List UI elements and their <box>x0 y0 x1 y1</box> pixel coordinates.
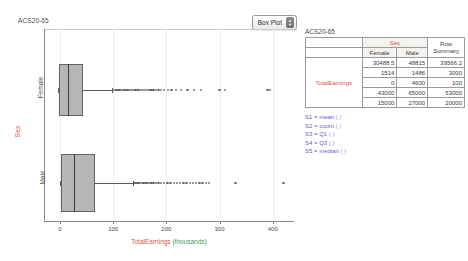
outlier-point[interactable] <box>192 182 194 184</box>
x-axis-line <box>44 221 294 222</box>
outlier-point[interactable] <box>182 182 184 184</box>
outlier-point[interactable] <box>169 182 171 184</box>
cell-row-summary: 100 <box>428 78 465 88</box>
cell-female: 30488.5 <box>362 58 397 68</box>
whisker-upper-female <box>83 90 112 91</box>
outlier-point[interactable] <box>179 182 181 184</box>
legend-entry-s5: S5 = median ( ) <box>305 147 465 156</box>
application-window: ACS20-65 Box Plot ▲▼ Sex Female Male 010… <box>0 0 468 261</box>
x-tick-100 <box>113 221 114 224</box>
outlier-point[interactable] <box>200 89 202 91</box>
box-male[interactable] <box>61 154 95 212</box>
outlier-point[interactable] <box>208 182 210 184</box>
legend-paren: ( ) <box>329 131 335 137</box>
plot-frame-top <box>44 29 294 30</box>
y-tick-label-female: Female <box>37 68 44 108</box>
outlier-point[interactable] <box>175 89 177 91</box>
header-spacer-2 <box>306 48 363 58</box>
x-tick-label-100: 100 <box>102 226 124 232</box>
outlier-point[interactable] <box>198 182 200 184</box>
column-header-male: Male <box>397 48 428 58</box>
outlier-point[interactable] <box>201 182 203 184</box>
legend-paren: ( ) <box>341 148 347 154</box>
legend-paren: ( ) <box>336 123 342 129</box>
x-tick-label-200: 200 <box>155 226 177 232</box>
cell-female: 43000 <box>362 88 397 98</box>
x-gridline-200 <box>166 29 167 221</box>
header-spacer <box>306 38 363 48</box>
stepper-icon[interactable]: ▲▼ <box>286 17 294 28</box>
table-header-group-row: Sex Row Summary <box>306 38 465 48</box>
outlier-point[interactable] <box>195 182 197 184</box>
outlier-point[interactable] <box>186 89 188 91</box>
cell-male: 65000 <box>397 88 428 98</box>
whisker-cap-lower-female <box>58 88 59 93</box>
median-line-female <box>68 64 69 116</box>
summary-panel: ACS20-65 Sex Row Summary Female Male Tot… <box>305 28 465 156</box>
outlier-point[interactable] <box>218 89 220 91</box>
y-axis-variable-label: Sex <box>14 117 21 147</box>
summary-title: ACS20-65 <box>305 28 465 35</box>
outlier-point[interactable] <box>189 182 191 184</box>
cell-row-summary: 3000 <box>428 68 465 78</box>
cell-female: 0 <box>362 78 397 88</box>
outlier-point[interactable] <box>193 89 195 91</box>
outlier-point[interactable] <box>160 89 162 91</box>
outlier-point[interactable] <box>163 182 165 184</box>
cell-female: 15000 <box>362 98 397 108</box>
legend-entry-s1: S1 = mean ( ) <box>305 113 465 122</box>
legend-entry-s3: S3 = Q1 ( ) <box>305 130 465 139</box>
column-header-female: Female <box>362 48 397 58</box>
x-tick-300 <box>220 221 221 224</box>
legend-paren: ( ) <box>329 140 335 146</box>
outlier-point[interactable] <box>185 182 187 184</box>
row-summary-header: Row Summary <box>428 38 465 58</box>
legend-key: S3 = Q1 <box>305 131 327 137</box>
view-type-dropdown[interactable]: Box Plot ▲▼ <box>252 15 297 30</box>
view-type-label: Box Plot <box>258 19 286 26</box>
outlier-point[interactable] <box>166 182 168 184</box>
outlier-point[interactable] <box>180 89 182 91</box>
plot-panel: ACS20-65 Box Plot ▲▼ Sex Female Male 010… <box>6 6 301 255</box>
cell-male: 1486 <box>397 68 428 78</box>
row-summary-header-line1: Row <box>430 41 462 48</box>
legend-key: S5 = median <box>305 148 339 154</box>
cell-female: 1514 <box>362 68 397 78</box>
x-tick-400 <box>273 221 274 224</box>
legend-entry-s2: S2 = count ( ) <box>305 122 465 131</box>
group-header-sex: Sex <box>362 38 428 48</box>
outlier-point[interactable] <box>173 182 175 184</box>
legend-key: S1 = mean <box>305 114 334 120</box>
outlier-point[interactable] <box>167 89 169 91</box>
outlier-point[interactable] <box>160 182 162 184</box>
x-tick-label-300: 300 <box>209 226 231 232</box>
x-gridline-100 <box>113 29 114 221</box>
table-row: TotalEarnings30488.54881539566.2 <box>306 58 465 68</box>
x-axis-units: (thousands) <box>172 238 206 245</box>
outlier-point[interactable] <box>205 182 207 184</box>
cell-row-summary: 53000 <box>428 88 465 98</box>
outlier-point[interactable] <box>224 89 226 91</box>
x-tick-200 <box>166 221 167 224</box>
plot-title: ACS20-65 <box>18 17 49 24</box>
y-tick-label-male: Male <box>39 158 46 198</box>
cell-row-summary: 39566.2 <box>428 58 465 68</box>
outlier-point[interactable] <box>282 182 284 184</box>
outlier-point[interactable] <box>170 89 172 91</box>
box-female[interactable] <box>59 64 82 116</box>
x-tick-0 <box>60 221 61 224</box>
x-tick-label-0: 0 <box>49 226 71 232</box>
legend-paren: ( ) <box>336 114 342 120</box>
row-label-totalearnings: TotalEarnings <box>306 58 363 108</box>
legend-entry-s4: S4 = Q3 ( ) <box>305 139 465 148</box>
outlier-point[interactable] <box>163 89 165 91</box>
outlier-point[interactable] <box>234 182 236 184</box>
outlier-point[interactable] <box>269 89 271 91</box>
median-line-male <box>74 154 75 212</box>
whisker-cap-lower-male <box>60 181 61 186</box>
x-gridline-300 <box>220 29 221 221</box>
x-axis-variable-name: TotalEarnings <box>131 238 170 245</box>
summary-table: Sex Row Summary Female Male TotalEarning… <box>305 37 465 108</box>
outlier-point[interactable] <box>176 182 178 184</box>
legend-key: S4 = Q3 <box>305 140 327 146</box>
